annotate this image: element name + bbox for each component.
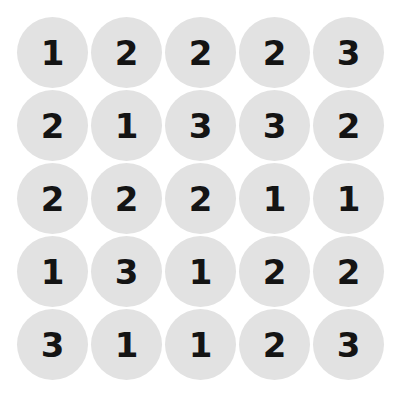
circle-token[interactable]: 2 [165,17,236,88]
circle-digit: 3 [263,109,287,143]
circle-digit: 1 [41,255,65,289]
circle-token[interactable]: 1 [91,309,162,380]
circle-token[interactable]: 1 [165,309,236,380]
circle-digit: 3 [41,328,65,362]
circle-token[interactable]: 3 [239,90,310,161]
circle-digit: 2 [263,255,287,289]
circle-digit: 1 [263,182,287,216]
circle-digit: 2 [189,36,213,70]
circle-token[interactable]: 1 [91,90,162,161]
circle-token[interactable]: 2 [91,17,162,88]
circle-digit: 2 [337,255,361,289]
circle-token[interactable]: 3 [313,17,384,88]
circle-digit: 1 [189,328,213,362]
circle-digit: 3 [189,109,213,143]
circle-token[interactable]: 2 [239,309,310,380]
circle-digit: 1 [337,182,361,216]
circle-token[interactable]: 1 [17,236,88,307]
circle-digit: 2 [189,182,213,216]
circle-token[interactable]: 2 [17,163,88,234]
circle-digit: 1 [189,255,213,289]
circle-digit: 2 [41,182,65,216]
circle-digit: 1 [115,328,139,362]
circle-token[interactable]: 1 [165,236,236,307]
circle-token[interactable]: 2 [91,163,162,234]
grid-row: 3 1 1 2 3 [17,309,384,380]
circle-token[interactable]: 2 [239,236,310,307]
circle-token[interactable]: 2 [313,236,384,307]
circle-token[interactable]: 3 [313,309,384,380]
circle-token[interactable]: 2 [17,90,88,161]
circle-digit: 2 [337,109,361,143]
grid-row: 2 1 3 3 2 [17,90,384,161]
circle-digit: 3 [337,328,361,362]
circle-digit: 2 [115,36,139,70]
grid-row: 1 3 1 2 2 [17,236,384,307]
circle-token[interactable]: 2 [165,163,236,234]
circle-digit: 2 [263,36,287,70]
circle-digit: 2 [41,109,65,143]
circle-token[interactable]: 2 [313,90,384,161]
numbered-circle-grid: 1 2 2 2 3 2 1 3 3 2 2 2 2 1 1 1 3 1 2 2 [0,0,402,410]
circle-token[interactable]: 1 [313,163,384,234]
grid-row: 1 2 2 2 3 [17,17,384,88]
circle-token[interactable]: 1 [17,17,88,88]
circle-grid-rows: 1 2 2 2 3 2 1 3 3 2 2 2 2 1 1 1 3 1 2 2 [17,17,384,380]
circle-digit: 1 [115,109,139,143]
circle-token[interactable]: 1 [239,163,310,234]
circle-digit: 1 [41,36,65,70]
circle-token[interactable]: 3 [17,309,88,380]
circle-digit: 2 [115,182,139,216]
circle-digit: 3 [337,36,361,70]
circle-digit: 3 [115,255,139,289]
circle-token[interactable]: 2 [239,17,310,88]
grid-row: 2 2 2 1 1 [17,163,384,234]
circle-token[interactable]: 3 [165,90,236,161]
circle-digit: 2 [263,328,287,362]
circle-token[interactable]: 3 [91,236,162,307]
